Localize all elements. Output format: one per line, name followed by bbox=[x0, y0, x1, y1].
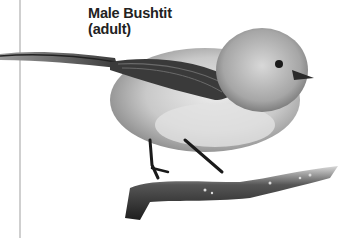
species-caption: Male Bushtit (adult) bbox=[88, 5, 172, 37]
tail bbox=[0, 52, 118, 68]
bushtit-photo bbox=[0, 0, 363, 238]
eye bbox=[275, 60, 283, 68]
caption-title: Male Bushtit bbox=[88, 5, 172, 21]
caption-subtitle: (adult) bbox=[88, 21, 172, 37]
